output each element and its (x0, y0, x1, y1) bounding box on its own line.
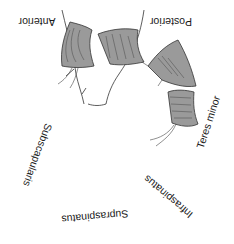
teres-minor-muscle (150, 90, 198, 146)
label-supraspinatus: Supraspinatus (61, 208, 129, 226)
svg-text:Teres minor: Teres minor (194, 94, 223, 150)
infraspinatus-muscle (148, 40, 196, 87)
label-teres-minor: Teres minor (194, 94, 223, 150)
subscapularis-muscle (58, 22, 94, 88)
label-posterior: Posterior (149, 16, 192, 28)
svg-text:Infraspinatus: Infraspinatus (141, 173, 195, 221)
label-anterior: Anterior (18, 16, 55, 28)
supraspinatus-muscle (98, 29, 148, 66)
label-subscapularis: Subscapularis (21, 122, 55, 188)
svg-text:Subscapularis: Subscapularis (21, 122, 55, 188)
svg-text:Supraspinatus: Supraspinatus (61, 208, 129, 226)
label-infraspinatus: Infraspinatus (141, 173, 195, 221)
svg-text:Anterior: Anterior (18, 16, 55, 28)
svg-text:Posterior: Posterior (149, 16, 192, 28)
rotator-cuff-diagram: Anterior Posterior Teres minor Infraspin… (0, 0, 234, 244)
